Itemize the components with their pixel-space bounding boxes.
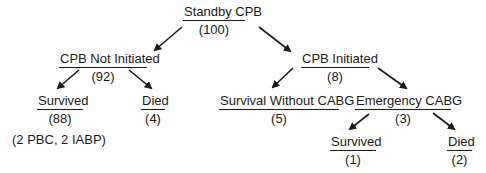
node-count: (2) — [447, 151, 472, 167]
node-standby-cpb: Standby CPB (100) — [183, 4, 245, 37]
node-label: Died — [447, 134, 472, 151]
node-label: Emergency CABG — [355, 93, 451, 110]
footnote-pbc-iabp: (2 PBC, 2 IABP) — [12, 132, 106, 147]
node-count: (100) — [183, 21, 245, 37]
node-count: (4) — [141, 110, 165, 126]
node-emergency-cabg: Emergency CABG (3) — [355, 93, 451, 126]
node-not-initiated-survived: Survived (88) — [37, 93, 83, 126]
edge-initiated-to-emergency-cabg — [378, 68, 406, 88]
node-count: (8) — [301, 68, 369, 84]
edge-root-to-initiated — [259, 27, 290, 51]
node-label: CPB Initiated — [301, 51, 369, 68]
node-count: (1) — [330, 151, 376, 167]
node-count: (3) — [355, 110, 451, 126]
node-label: Standby CPB — [183, 4, 245, 21]
node-label: CPB Not Initiated — [59, 51, 147, 68]
node-count: (92) — [59, 68, 147, 84]
node-cpb-not-initiated: CPB Not Initiated (92) — [59, 51, 147, 84]
edge-root-to-not-initiated — [155, 27, 182, 50]
edge-initiated-to-survival-without-cabg — [273, 68, 293, 87]
node-label: Survived — [37, 93, 83, 110]
node-label: Survived — [330, 134, 376, 151]
node-cpb-initiated: CPB Initiated (8) — [301, 51, 369, 84]
node-emergency-cabg-survived: Survived (1) — [330, 134, 376, 167]
node-count: (5) — [219, 110, 339, 126]
node-emergency-cabg-died: Died (2) — [447, 134, 472, 167]
node-survival-without-cabg: Survival Without CABG (5) — [219, 93, 339, 126]
node-count: (88) — [37, 110, 83, 126]
node-label: Survival Without CABG — [219, 93, 339, 110]
node-label: Died — [141, 93, 165, 110]
node-not-initiated-died: Died (4) — [141, 93, 165, 126]
